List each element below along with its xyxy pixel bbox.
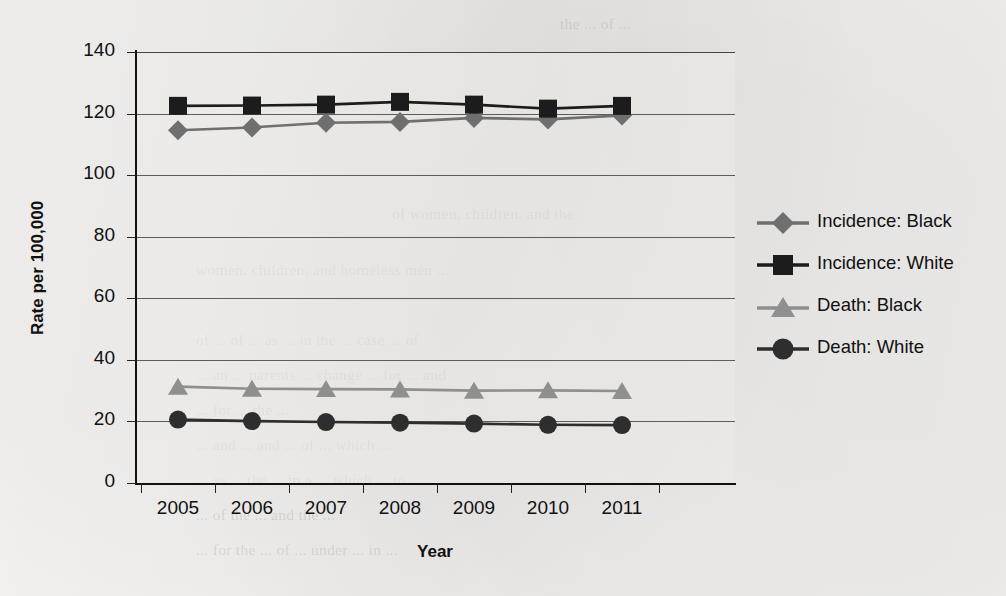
legend-label: Incidence: White bbox=[817, 252, 954, 274]
x-axis-tick bbox=[659, 483, 660, 493]
data-point-marker bbox=[465, 96, 483, 114]
triangle-marker-icon bbox=[755, 292, 811, 322]
data-point-marker bbox=[391, 414, 409, 432]
data-point-marker bbox=[242, 117, 262, 137]
x-axis-tick-label: 2008 bbox=[363, 497, 437, 519]
circle-marker-icon bbox=[755, 334, 811, 364]
x-axis-tick-label: 2007 bbox=[289, 497, 363, 519]
x-axis-tick bbox=[511, 483, 512, 493]
data-point-marker bbox=[316, 113, 336, 133]
y-axis-tick bbox=[127, 52, 136, 53]
y-axis-tick-label: 0 bbox=[55, 470, 115, 492]
y-axis-tick-label: 120 bbox=[55, 101, 115, 123]
y-axis-tick bbox=[127, 360, 136, 361]
diamond-marker-icon bbox=[755, 208, 811, 238]
x-axis-tick bbox=[363, 483, 364, 493]
data-point-marker bbox=[168, 120, 188, 140]
data-point-marker bbox=[317, 96, 335, 114]
legend-label: Death: Black bbox=[817, 294, 922, 316]
y-axis-tick-label: 20 bbox=[55, 408, 115, 430]
data-point-marker bbox=[391, 93, 409, 111]
x-axis-tick-label: 2011 bbox=[585, 497, 659, 519]
y-axis-tick bbox=[127, 237, 136, 238]
y-axis-tick bbox=[127, 114, 136, 115]
y-axis-tick-label: 140 bbox=[55, 39, 115, 61]
legend-label: Incidence: Black bbox=[817, 210, 952, 232]
data-point-marker bbox=[243, 97, 261, 115]
x-axis-tick bbox=[585, 483, 586, 493]
line-chart-figure: Rate per 100,000 Year Incidence: Black I… bbox=[0, 0, 1006, 596]
y-axis-tick bbox=[127, 483, 136, 484]
data-point-marker bbox=[539, 416, 557, 434]
y-axis-tick bbox=[127, 421, 136, 422]
data-point-marker bbox=[539, 100, 557, 118]
x-axis-tick-label: 2009 bbox=[437, 497, 511, 519]
square-marker-icon bbox=[755, 250, 811, 280]
x-axis-title: Year bbox=[130, 542, 740, 562]
data-point-marker bbox=[243, 412, 261, 430]
x-axis-tick bbox=[215, 483, 216, 493]
y-axis-tick-label: 100 bbox=[55, 162, 115, 184]
y-axis-tick-label: 40 bbox=[55, 347, 115, 369]
x-axis-tick bbox=[141, 483, 142, 493]
data-point-marker bbox=[169, 97, 187, 115]
data-point-marker bbox=[613, 416, 631, 434]
x-axis-tick bbox=[289, 483, 290, 493]
x-axis-tick-label: 2010 bbox=[511, 497, 585, 519]
y-axis-tick-label: 60 bbox=[55, 285, 115, 307]
data-point-marker bbox=[317, 413, 335, 431]
series-death-white bbox=[169, 411, 631, 435]
y-axis-tick bbox=[127, 175, 136, 176]
x-axis-tick bbox=[437, 483, 438, 493]
y-axis-tick-label: 80 bbox=[55, 224, 115, 246]
y-axis-tick bbox=[127, 298, 136, 299]
data-point-marker bbox=[169, 411, 187, 429]
x-axis-tick-label: 2005 bbox=[141, 497, 215, 519]
data-point-marker bbox=[613, 97, 631, 115]
series-death-black bbox=[168, 378, 632, 399]
data-point-marker bbox=[390, 112, 410, 132]
data-point-marker bbox=[465, 415, 483, 433]
legend-label: Death: White bbox=[817, 336, 924, 358]
x-axis-tick-label: 2006 bbox=[215, 497, 289, 519]
